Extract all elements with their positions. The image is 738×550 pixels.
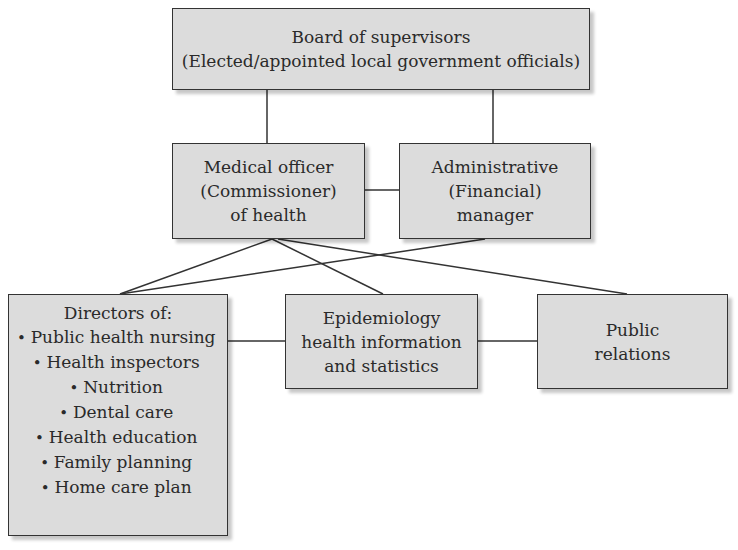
node-administrative-manager: Administrative (Financial) manager <box>399 143 591 239</box>
node-label: and statistics <box>324 354 439 378</box>
node-label: (Financial) <box>448 179 541 203</box>
node-medical-officer: Medical officer (Commissioner) of health <box>172 143 365 239</box>
node-label: Medical officer <box>204 155 334 179</box>
list-item: Home care plan <box>17 475 215 500</box>
node-epidemiology: Epidemiology health information and stat… <box>285 294 478 389</box>
list-item: Health education <box>17 425 215 450</box>
node-label: Epidemiology <box>323 306 441 330</box>
list-item: Public health nursing <box>17 325 215 350</box>
edge-medical-directors <box>120 239 272 294</box>
list-item: Nutrition <box>17 375 215 400</box>
node-label: of health <box>230 203 306 227</box>
node-title: Directors of: <box>64 301 172 325</box>
list-item: Dental care <box>17 400 215 425</box>
directors-list: Public health nursing Health inspectors … <box>17 325 215 500</box>
edge-admin-directors <box>120 239 485 294</box>
node-label: Board of supervisors <box>292 25 471 49</box>
list-item: Family planning <box>17 450 215 475</box>
node-label: Administrative <box>432 155 559 179</box>
node-label: manager <box>457 203 533 227</box>
list-item: Health inspectors <box>17 350 215 375</box>
node-label: Public <box>606 318 660 342</box>
node-board-of-supervisors: Board of supervisors (Elected/appointed … <box>172 8 590 90</box>
node-label: (Elected/appointed local government offi… <box>182 49 580 73</box>
node-label: (Commissioner) <box>200 179 336 203</box>
node-label: relations <box>595 342 671 366</box>
node-directors: Directors of: Public health nursing Heal… <box>8 294 228 536</box>
edge-medical-public-relations <box>278 239 627 294</box>
node-public-relations: Public relations <box>537 294 728 389</box>
node-label: health information <box>301 330 462 354</box>
